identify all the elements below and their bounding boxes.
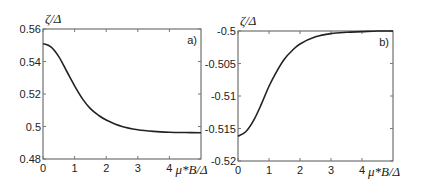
y-tick-label: 0.48 xyxy=(20,153,41,165)
panel-label: b) xyxy=(379,36,389,48)
x-tick-label: 1 xyxy=(72,162,78,174)
panel-label: a) xyxy=(187,34,197,46)
y-tick-label: 0.54 xyxy=(20,56,41,68)
x-tick-label: 3 xyxy=(135,162,141,174)
x-tick-label: 4 xyxy=(166,162,172,174)
y-tick-label: -0.505 xyxy=(205,58,236,70)
y-tick-label: 0.52 xyxy=(20,88,41,100)
x-tick-label: 1 xyxy=(266,164,272,176)
x-tick-label: 2 xyxy=(297,164,303,176)
y-tick-label: 0.5 xyxy=(26,121,41,133)
figure: 012340.480.50.520.540.56ζ/Δμ*B/Δa)01234-… xyxy=(0,0,422,187)
y-tick-label: 0.56 xyxy=(20,23,41,35)
y-tick-label: -0.51 xyxy=(211,90,236,102)
data-curve xyxy=(43,44,201,133)
x-tick-label: 2 xyxy=(103,162,109,174)
x-axis-label: μ*B/Δ xyxy=(367,164,401,179)
y-tick-label: -0.5 xyxy=(217,25,236,37)
x-axis-label: μ*B/Δ xyxy=(174,162,208,177)
y-axis-label: ζ/Δ xyxy=(240,13,257,28)
x-tick-label: 3 xyxy=(328,164,334,176)
plot-panel-a: 012340.480.50.520.540.56ζ/Δμ*B/Δa) xyxy=(20,11,208,177)
y-tick-label: -0.515 xyxy=(205,123,236,135)
x-tick-label: 4 xyxy=(359,164,365,176)
plot-panel-b: 01234-0.52-0.515-0.51-0.505-0.5ζ/Δμ*B/Δb… xyxy=(205,13,401,179)
y-axis-label: ζ/Δ xyxy=(45,11,62,26)
axes-box xyxy=(238,31,393,161)
y-tick-label: -0.52 xyxy=(211,155,236,167)
data-curve xyxy=(238,31,393,136)
axes-box xyxy=(43,29,201,159)
